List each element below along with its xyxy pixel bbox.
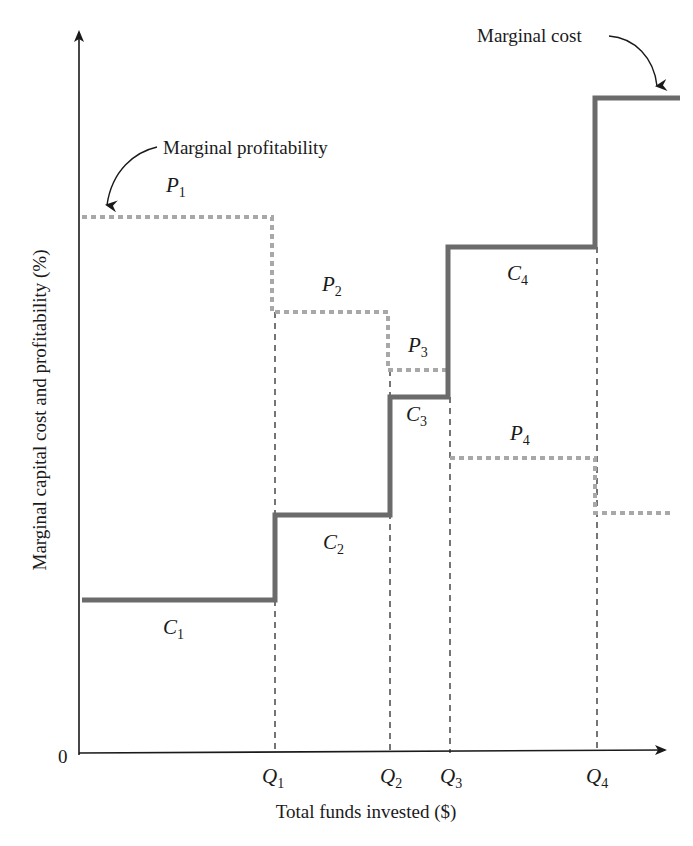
x-axis bbox=[79, 750, 665, 753]
p4-label: P4 bbox=[509, 421, 530, 448]
c1-label: C1 bbox=[163, 615, 184, 642]
q3-label: Q3 bbox=[440, 764, 462, 791]
y-axis-title: Marginal capital cost and profitability … bbox=[29, 250, 51, 571]
q2-label: Q2 bbox=[380, 764, 402, 791]
annotation-arrow-profitability bbox=[107, 147, 157, 205]
chart-canvas: 0 Q1 Q2 Q3 Q4 Total funds invested ($) M… bbox=[0, 0, 693, 846]
p2-label: P2 bbox=[321, 272, 342, 299]
annotation-marginal-profitability: Marginal profitability bbox=[163, 137, 328, 158]
p3-label: P3 bbox=[407, 333, 428, 360]
x-axis-title: Total funds invested ($) bbox=[276, 801, 457, 823]
q-guide-lines bbox=[275, 247, 597, 753]
origin-label: 0 bbox=[58, 746, 68, 767]
c2-label: C2 bbox=[323, 530, 344, 557]
p1-label: P1 bbox=[165, 173, 186, 200]
q4-label: Q4 bbox=[586, 764, 608, 791]
c3-label: C3 bbox=[406, 402, 427, 429]
profitability-step-line bbox=[82, 217, 670, 513]
q1-label: Q1 bbox=[262, 764, 284, 791]
c4-label: C4 bbox=[507, 261, 528, 288]
annotation-arrow-cost bbox=[609, 36, 657, 86]
annotation-marginal-cost: Marginal cost bbox=[477, 25, 582, 46]
